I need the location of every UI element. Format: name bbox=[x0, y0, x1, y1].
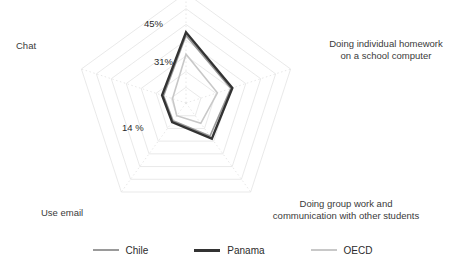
axis-label-homework: Doing individual homework on a school co… bbox=[313, 38, 459, 62]
legend-label: OECD bbox=[344, 245, 373, 256]
legend-item-chile[interactable]: Chile bbox=[93, 245, 149, 256]
radar-chart: Doing individual homework on a school co… bbox=[0, 0, 465, 269]
axis-label-groupwork: Doing group work and communication with … bbox=[228, 198, 464, 222]
axis-label-groupwork-line2: communication with other students bbox=[273, 210, 419, 221]
radar-gridlines bbox=[81, 0, 290, 192]
legend-label: Chile bbox=[126, 245, 149, 256]
legend-item-oecd[interactable]: OECD bbox=[311, 245, 373, 256]
radar-series-group bbox=[162, 32, 232, 138]
axis-label-chat: Chat bbox=[16, 40, 36, 52]
legend-swatch-chile bbox=[93, 249, 119, 251]
axis-label-use-email: Use email bbox=[41, 207, 83, 219]
series-polygon-chile bbox=[164, 35, 231, 136]
legend-swatch-oecd bbox=[311, 249, 337, 251]
axis-label-homework-line2: on a school computer bbox=[341, 50, 432, 61]
data-label-14-percent: 14 % bbox=[122, 122, 144, 133]
legend-swatch-panama bbox=[194, 249, 220, 252]
axis-label-groupwork-line1: Doing group work and bbox=[300, 198, 393, 209]
legend-label: Panama bbox=[227, 245, 264, 256]
data-label-45-percent: 45% bbox=[144, 18, 163, 29]
axis-label-homework-line1: Doing individual homework bbox=[329, 38, 443, 49]
legend-item-panama[interactable]: Panama bbox=[194, 245, 264, 256]
chart-legend: ChilePanamaOECD bbox=[0, 238, 465, 262]
grid-ring bbox=[81, 0, 290, 192]
data-label-31-percent: 31% bbox=[154, 56, 173, 67]
